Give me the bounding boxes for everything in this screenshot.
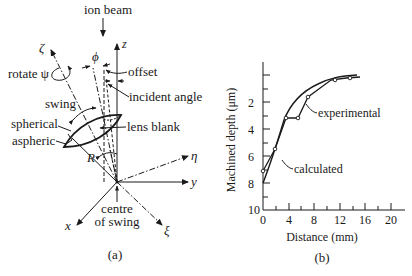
caption-a: (a) [108,247,122,262]
y-tick-label: 4 [248,123,254,137]
y-axis-title: Machined depth (μm) [224,88,238,192]
incident-angle-label: incident angle [129,89,203,104]
calculated-label: calculated [294,162,343,176]
x-tick-label: 12 [334,213,346,227]
figure-canvas: ion beam z ζ ϕ rotate ψ offset incident … [0,0,412,276]
ion-beam-label: ion beam [84,2,132,17]
y-tick-label: 2 [248,96,254,110]
experimental-label: experimental [318,106,381,120]
offset-line [106,78,117,182]
spherical-label: spherical [11,116,58,131]
x-tick-label: 16 [359,213,371,227]
experimental-curve [263,77,360,171]
offset-label: offset [128,64,158,79]
lens-blank-label: lens blank [127,119,181,134]
y-axis-label: y [189,174,197,189]
z-axis-label: z [121,37,127,51]
swing-arrow-icon [73,108,96,120]
diagram-a: ion beam z ζ ϕ rotate ψ offset incident … [8,2,203,262]
rotate-psi-label: rotate ψ [8,66,49,81]
aspheric-label: aspheric [12,133,56,148]
centre-label-line2: of swing [94,214,140,229]
y-tick-label: 8 [248,177,254,191]
rotate-arrow-icon [52,66,70,80]
y-tick-label: 10 [248,203,260,217]
eta-axis [117,156,188,182]
y-tick-label: 6 [248,150,254,164]
x-ticks [276,203,391,210]
eta-axis-label: η [191,148,197,163]
x-axis-title: Distance (mm) [286,230,358,244]
x-tick-label: 4 [286,213,292,227]
x-tick-label: 0 [260,213,266,227]
x-tick-label: 20 [385,213,397,227]
x-tick-label: 8 [311,213,317,227]
chart-b: 2 4 6 8 10 0 4 8 12 16 20 Distance (mm) … [224,62,405,265]
centre-point [116,181,119,184]
zeta-axis-label: ζ [39,40,45,55]
x-axis-label: x [64,218,71,233]
radius-label: R [86,150,95,165]
caption-b: (b) [314,250,329,265]
phi-label: ϕ [92,49,99,64]
xi-axis-label: ξ [164,223,170,238]
swing-label: swing [45,96,77,111]
